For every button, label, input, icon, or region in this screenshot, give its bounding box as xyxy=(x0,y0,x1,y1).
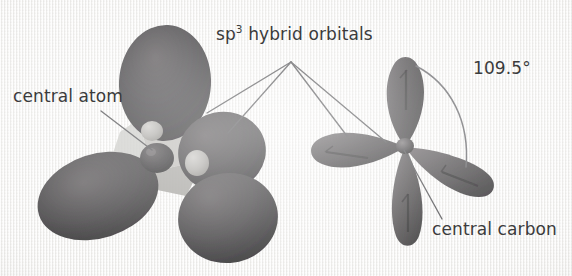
leader-sp3-4 xyxy=(291,62,386,142)
central-atom-sphere xyxy=(140,143,174,173)
core-nub-right xyxy=(185,150,209,176)
leader-sp3-2 xyxy=(228,62,291,133)
orbital-diagram-figure: sp3 hybrid orbitals central atom 109.5° … xyxy=(0,0,572,276)
leader-sp3-1 xyxy=(207,62,291,113)
label-bond-angle: 109.5° xyxy=(473,60,531,78)
core-nub-upper xyxy=(141,121,163,141)
label-sp3-rest: hybrid orbitals xyxy=(243,24,373,44)
label-sp3-superscript: 3 xyxy=(236,23,243,35)
orbital-teardrop-up xyxy=(387,57,424,147)
label-central-atom: central atom xyxy=(13,88,123,106)
label-sp3-hybrid-orbitals: sp3 hybrid orbitals xyxy=(216,26,373,44)
label-central-carbon: central carbon xyxy=(432,221,557,239)
leader-sp3-3 xyxy=(291,62,347,136)
orbital-teardrop-left xyxy=(311,133,405,168)
left-molecule-model xyxy=(26,23,284,270)
label-sp3-base: sp xyxy=(216,24,236,44)
